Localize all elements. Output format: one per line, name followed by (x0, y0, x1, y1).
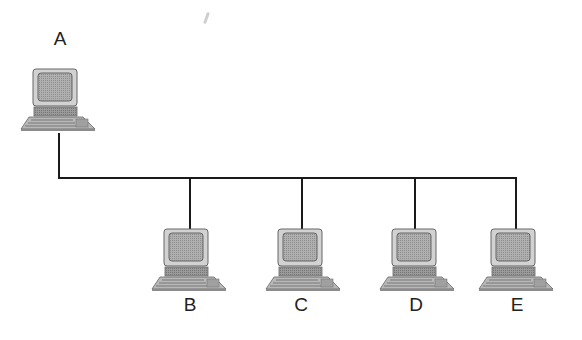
computer-icon-e (477, 228, 557, 292)
node-label-a: A (54, 28, 67, 50)
computer-icon-c (264, 228, 344, 292)
network-diagram: A B C D E (0, 0, 582, 340)
node-label-c: C (294, 294, 308, 316)
node-label-b: B (184, 294, 197, 316)
node-label-e: E (511, 294, 524, 316)
computer-icon-d (378, 228, 458, 292)
node-label-d: D (409, 294, 423, 316)
computer-icon-b (150, 228, 230, 292)
computer-icon-a (19, 68, 99, 132)
